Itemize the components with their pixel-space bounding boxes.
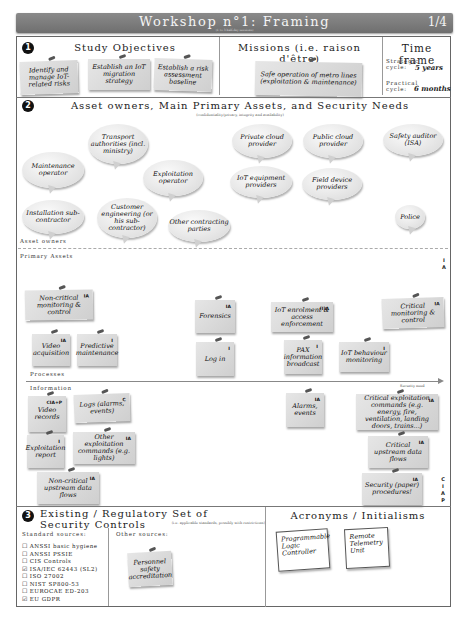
process-note: IANon-critical monitoring & control [25, 289, 94, 320]
title-bar: Workshop n°1: Framing (1 to 3 half-day s… [16, 13, 453, 33]
objectives-title: Study Objectives [40, 42, 210, 53]
information-note: IACritical exploitation commands (e.g. e… [356, 394, 438, 430]
process-note: IIoT behaviour monitoring [339, 342, 389, 372]
asset-owners-label: Asset owners [20, 238, 67, 244]
information-note: IAOther exploitation commands (e.g. ligh… [73, 432, 135, 464]
process-note: IPAX information broadcast [284, 340, 322, 374]
owner-bubble: Customer engineering (or his sub-contrac… [97, 198, 157, 238]
process-note: IACritical monitoring & control [381, 297, 444, 329]
section-divider [16, 97, 451, 98]
page-number: 1/4 [428, 15, 447, 29]
section-3-subtitle: (i.e. applicable standards, possibly wit… [140, 521, 265, 525]
standard-item[interactable]: ☐ CIS Controls [22, 558, 108, 566]
information-note: IASecurity (paper) procedures! [362, 473, 422, 505]
acronym-note: Programmable Logic Controller [276, 528, 331, 572]
dashed-divider [18, 248, 448, 249]
objective-note: Establish an IoT migration strategy [88, 59, 150, 90]
information-label: Information [30, 385, 72, 391]
owner-bubble: Exploitation operator [143, 160, 203, 196]
owner-bubble: IoT equipment providers [230, 166, 292, 198]
processes-label: Processes [30, 371, 65, 377]
divider [382, 37, 383, 95]
standard-item[interactable]: ☑ ISA/IEC 62443 (SL2) [22, 566, 108, 574]
security-need-axis [26, 381, 441, 382]
process-note: IAVideo acquisition [32, 334, 70, 366]
acronym-note: Remote Telemetry Unit [344, 527, 390, 569]
other-source-note: Personnel safety accreditation [127, 551, 173, 587]
section-3-title: Existing / Regulatory Set of Security Co… [40, 508, 260, 530]
other-sources-label: Other sources: [116, 531, 168, 537]
mission-note: Safe operation of metro lines (exploitat… [255, 61, 363, 97]
divider [219, 37, 220, 95]
information-note: IAAlarms, events [286, 393, 324, 427]
owner-bubble: Transport authorities (incl. ministry) [88, 124, 148, 164]
acronyms-title: Acronyms / Initialisms [268, 510, 448, 521]
divider [265, 507, 266, 607]
information-note: IACritical upstream data flows [368, 436, 428, 468]
primary-assets-label: Primary Assets [20, 253, 73, 259]
owner-bubble: Installation sub-contractor [22, 200, 84, 234]
process-note: IAForensics [195, 300, 235, 333]
section-2-number: 2 [22, 100, 34, 112]
information-note: IANon-critical upstream data flows [37, 472, 99, 504]
owner-bubble: Safety auditor (ISA) [383, 124, 443, 156]
practical-cycle-label: Practical cycle: [386, 80, 416, 92]
objective-note: Establish a risk assessment baseline [153, 58, 212, 92]
axis-bottom-label: CIAP [440, 476, 446, 504]
owner-bubble: Other contracting parties [168, 210, 230, 242]
standard-item[interactable]: ☑ EU GDPR [22, 596, 108, 604]
owner-bubble: Public cloud provider [303, 124, 363, 158]
process-note: IPredictive maintenance [77, 334, 117, 366]
owner-bubble: Maintenance operator [22, 152, 84, 188]
strategic-cycle-label: Strategic cycle: [386, 58, 416, 70]
information-note: IExploitation report [27, 435, 64, 468]
objective-note: Identify and manage IoT-related risks [19, 60, 78, 95]
process-note: ILog in [196, 342, 234, 376]
divider [108, 528, 109, 606]
information-note: CLogs (alarms, events) [74, 393, 131, 423]
standard-item[interactable]: ☐ ANSSI PSSIE [22, 551, 108, 559]
owner-bubble: Police [395, 205, 425, 229]
missions-title: Missions (i.e. raison d'être) [222, 42, 377, 64]
section-2-title: Asset owners, Main Primary Assets, and S… [60, 100, 420, 111]
section-divider [16, 506, 451, 507]
strategic-cycle-value: 5 years [415, 63, 443, 72]
page-title: Workshop n°1: Framing [16, 14, 453, 29]
process-note: (I)AIoT enrolment & access enforcement [271, 302, 333, 332]
information-note: CIA+PVideo records [28, 396, 66, 432]
owner-bubble: Field device providers [302, 168, 362, 200]
section-3-number: 3 [22, 510, 34, 522]
practical-cycle-value: 6 months [414, 84, 451, 93]
standard-list: ☐ ANSSI basic hygiene ☐ ANSSI PSSIE ☐ CI… [22, 543, 108, 603]
owner-bubble: Private cloud provider [232, 124, 292, 158]
security-need-label: Security need [400, 384, 425, 388]
page-subtitle: (1 to 3 half-day sessions) [16, 28, 453, 32]
section-1-number: 1 [22, 42, 34, 54]
standard-sources-label: Standard sources: [22, 531, 86, 537]
section-2-subtitle: (confidentiality/privacy, integrity and … [60, 113, 420, 117]
standard-item[interactable]: ☐ NIST SP800-53 [22, 581, 108, 589]
standard-item[interactable]: ☐ ANSSI basic hygiene [22, 543, 108, 551]
axis-top-label: IA [441, 257, 447, 271]
standard-item[interactable]: ☐ EUROCAE ED-203 [22, 588, 108, 596]
standard-item[interactable]: ☐ ISO 27002 [22, 573, 108, 581]
